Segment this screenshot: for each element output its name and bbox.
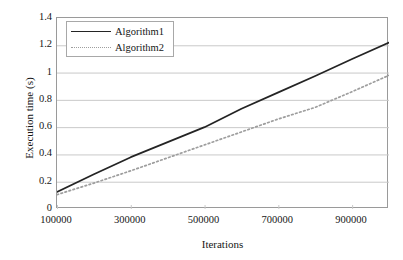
y-tick-label: 1.4 — [6, 12, 52, 22]
series-line-1 — [57, 43, 389, 192]
x-tick-label: 900000 — [316, 214, 386, 225]
y-tick-label: 0.8 — [6, 94, 52, 104]
x-axis-title: Iterations — [56, 238, 389, 250]
plot-area: Algorithm1 Algorithm2 — [56, 17, 388, 208]
y-tick-label: 0 — [6, 203, 52, 213]
series-line-2 — [57, 75, 389, 194]
solid-line-key-icon — [71, 26, 111, 38]
chart-figure: Execution time (s) 00.20.40.60.811.21.4 … — [0, 0, 403, 260]
legend-item-algorithm1: Algorithm1 — [67, 23, 175, 40]
dotted-line-key-icon — [71, 42, 111, 54]
legend-item-label: Algorithm1 — [115, 26, 164, 38]
x-tick-label: 100000 — [21, 214, 91, 225]
x-tick-label: 700000 — [242, 214, 312, 225]
legend-item-label: Algorithm2 — [115, 42, 164, 54]
y-tick-label: 0.6 — [6, 121, 52, 131]
y-tick-label: 0.4 — [6, 148, 52, 158]
y-tick-label: 0.2 — [6, 176, 52, 186]
x-tick-label: 500000 — [169, 214, 239, 225]
y-tick-label: 1.2 — [6, 39, 52, 49]
legend-box: Algorithm1 Algorithm2 — [66, 21, 174, 57]
y-tick-label: 1 — [6, 67, 52, 77]
legend-item-algorithm2: Algorithm2 — [67, 39, 175, 56]
x-tick-label: 300000 — [95, 214, 165, 225]
